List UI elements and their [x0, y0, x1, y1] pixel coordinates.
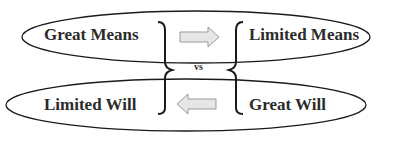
label-limited-will: Limited Will — [44, 96, 136, 113]
label-limited-means: Limited Means — [249, 26, 359, 43]
label-vs: vs — [194, 62, 203, 72]
arrow-left-icon — [177, 94, 216, 114]
label-great-means: Great Means — [44, 26, 139, 43]
right-brace-icon — [229, 22, 243, 114]
label-great-will: Great Will — [249, 96, 326, 113]
diagram-canvas — [0, 0, 401, 144]
left-brace-icon — [158, 22, 172, 114]
arrow-right-icon — [180, 27, 219, 47]
